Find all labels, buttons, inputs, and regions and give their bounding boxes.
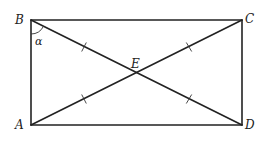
- label-alpha: α: [35, 35, 43, 48]
- rectangle-diagram: B C A D E α: [0, 0, 269, 141]
- label-b: B: [14, 13, 24, 27]
- label-d: D: [244, 118, 255, 132]
- label-a: A: [14, 118, 24, 132]
- label-e: E: [130, 57, 140, 71]
- label-c: C: [245, 12, 254, 26]
- angle-arc-alpha: [31, 26, 44, 34]
